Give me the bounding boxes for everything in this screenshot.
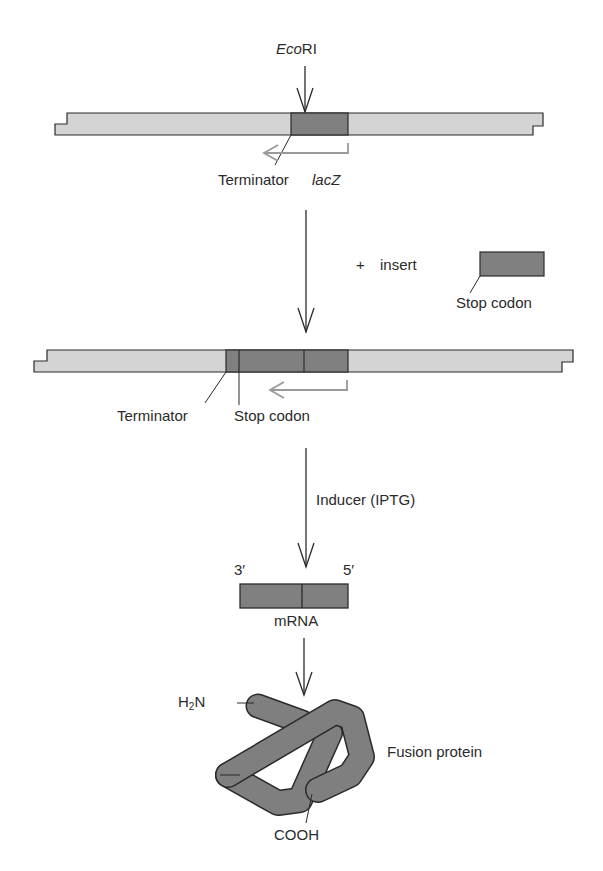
five-prime-label: 5′ (343, 561, 354, 579)
ecori-label-roman: RI (302, 40, 317, 57)
diagram-canvas (0, 0, 603, 871)
stop-codon-label-recombinant: Stop codon (234, 407, 310, 425)
terminator-label-top: Terminator (218, 171, 289, 189)
terminator-pointer-recombinant (205, 372, 226, 403)
insert-stop-codon-label: Stop codon (456, 294, 532, 312)
vector-dna-recombinant (34, 350, 573, 372)
n-terminus-n: N (194, 693, 205, 710)
ecori-label-italic: Eco (276, 40, 302, 57)
arrow-ligation (298, 210, 314, 332)
mrna-block (240, 584, 348, 608)
ecori-label: EcoRI (276, 40, 317, 58)
terminator-label-recombinant: Terminator (117, 407, 188, 425)
insert-stop-codon-pointer (470, 276, 480, 293)
three-prime-label: 3′ (234, 561, 245, 579)
n-terminus-h: H (178, 693, 189, 710)
n-terminus-label: H2N (178, 693, 205, 711)
insert-stop-codon-block (480, 252, 544, 276)
mrna-label: mRNA (274, 612, 318, 630)
arrow-translation (296, 638, 312, 695)
c-terminus-label: COOH (274, 826, 319, 844)
lacz-label: lacZ (312, 171, 340, 189)
lacz-promoter-arrow-recombinant (270, 380, 347, 398)
vector-dna-top (55, 113, 543, 135)
fusion-protein-label: Fusion protein (387, 743, 482, 761)
fusion-protein-shape (220, 706, 362, 803)
plus-sign: + (356, 256, 365, 274)
lacz-promoter-arrow-top (264, 143, 348, 161)
inducer-label: Inducer (IPTG) (316, 491, 415, 509)
insert-label: insert (380, 256, 417, 274)
arrow-ecori-cut (297, 66, 313, 112)
arrow-induction (298, 448, 314, 567)
